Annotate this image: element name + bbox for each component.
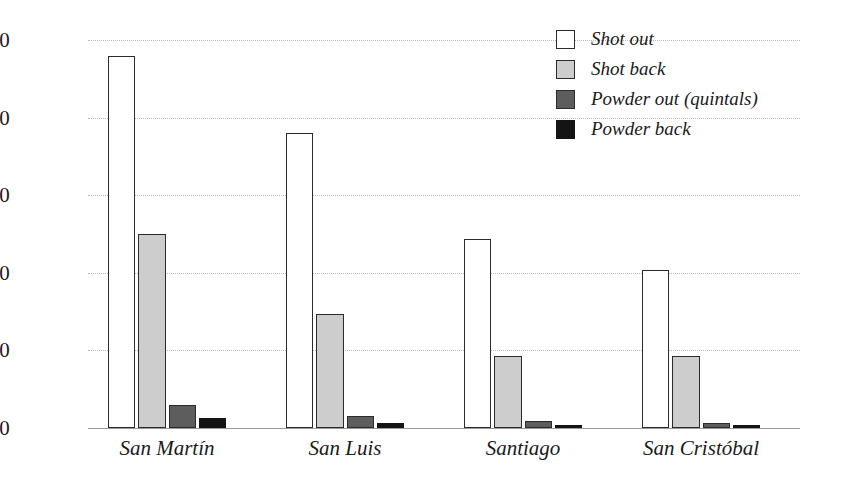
- x-axis-tick-label: Santiago: [486, 436, 561, 461]
- bar[interactable]: [464, 239, 491, 428]
- legend-item-label: Powder out (quintals): [591, 88, 758, 110]
- y-axis-tick-label: 2,500: [0, 28, 10, 53]
- bar[interactable]: [138, 234, 165, 428]
- bar[interactable]: [555, 425, 582, 428]
- y-axis-tick-label: 1,000: [0, 260, 10, 285]
- bars: [108, 40, 226, 428]
- bar[interactable]: [108, 56, 135, 428]
- x-axis-tick-label: San Cristóbal: [643, 436, 759, 461]
- bars: [286, 40, 404, 428]
- bar-group: San Luis: [286, 40, 404, 428]
- y-axis-tick-label: 1,500: [0, 183, 10, 208]
- bar[interactable]: [347, 416, 374, 428]
- y-axis-tick-label: 500: [0, 338, 10, 363]
- bar[interactable]: [169, 405, 196, 428]
- legend-item[interactable]: Shot out: [556, 24, 856, 54]
- bar[interactable]: [199, 418, 226, 428]
- legend-item[interactable]: Powder back: [556, 114, 856, 144]
- bar-group: San Martín: [108, 40, 226, 428]
- bar[interactable]: [316, 314, 343, 428]
- bar[interactable]: [642, 270, 669, 428]
- axis-baseline: [88, 428, 800, 429]
- legend-swatch-icon: [556, 60, 575, 79]
- legend-swatch-icon: [556, 120, 575, 139]
- legend-swatch-icon: [556, 90, 575, 109]
- legend-item-label: Shot out: [591, 28, 654, 50]
- legend: Shot outShot backPowder out (quintals)Po…: [556, 24, 856, 144]
- bar-chart: 05001,0001,5002,0002,500 San MartínSan L…: [0, 0, 860, 482]
- y-axis-tick-label: 2,000: [0, 105, 10, 130]
- legend-item[interactable]: Powder out (quintals): [556, 84, 856, 114]
- legend-item-label: Shot back: [591, 58, 665, 80]
- bar[interactable]: [286, 133, 313, 428]
- bar[interactable]: [703, 423, 730, 428]
- bar[interactable]: [377, 423, 404, 428]
- bar[interactable]: [494, 356, 521, 428]
- x-axis-tick-label: San Martín: [119, 436, 214, 461]
- x-axis-tick-label: San Luis: [309, 436, 382, 461]
- legend-item-label: Powder back: [591, 118, 691, 140]
- legend-swatch-icon: [556, 30, 575, 49]
- bar[interactable]: [733, 425, 760, 428]
- bar[interactable]: [525, 421, 552, 428]
- legend-item[interactable]: Shot back: [556, 54, 856, 84]
- bar[interactable]: [672, 356, 699, 428]
- y-axis-tick-label: 0: [0, 416, 10, 441]
